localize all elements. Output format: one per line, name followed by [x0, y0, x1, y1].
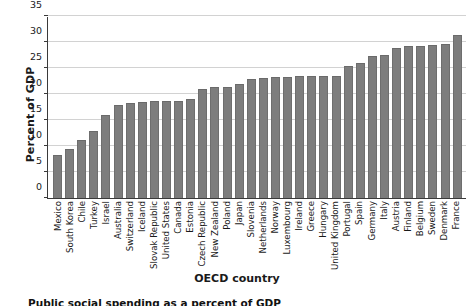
x-tick-label: Mexico — [53, 201, 62, 231]
bar — [114, 105, 123, 198]
bar — [198, 89, 207, 198]
x-tick-label: France — [452, 201, 461, 230]
bar — [235, 84, 244, 198]
x-tick-label: Slovenia — [246, 201, 255, 238]
x-tick-label: South Korea — [65, 201, 74, 253]
x-tick: Slovenia — [245, 199, 256, 271]
x-tick-label: Canada — [174, 201, 183, 234]
x-tick: Czech Republic — [197, 199, 208, 271]
y-tick-label: 10 — [16, 129, 42, 140]
bar — [126, 103, 135, 198]
x-tick: Iceland — [137, 199, 148, 271]
x-axis-tick-labels: MexicoSouth KoreaChileTurkeyIsraelAustra… — [47, 199, 466, 271]
x-tick: Israel — [100, 199, 111, 271]
bar — [77, 140, 86, 198]
figure-caption: Public social spending as a percent of G… — [28, 298, 448, 306]
x-tick-label: Austria — [391, 201, 400, 231]
x-tick: Mexico — [52, 199, 63, 271]
x-axis-title: OECD country — [0, 272, 474, 285]
x-tick-label: Australia — [113, 201, 122, 239]
bar — [283, 77, 292, 198]
bar — [174, 101, 183, 198]
x-tick: Turkey — [88, 199, 99, 271]
x-tick: South Korea — [64, 199, 75, 271]
x-tick-label: Chile — [77, 201, 86, 223]
x-tick-label: Estonia — [186, 201, 195, 233]
gridline — [48, 15, 466, 16]
bar — [356, 63, 365, 198]
y-tick-label: 20 — [16, 77, 42, 88]
x-tick: New Zealand — [209, 199, 220, 271]
y-tick-label: 5 — [16, 155, 42, 166]
x-tick: Denmark — [439, 199, 450, 271]
y-tick-label: 25 — [16, 51, 42, 62]
x-tick: Slovak Republic — [149, 199, 160, 271]
bar — [441, 44, 450, 198]
y-tick-mark — [44, 15, 48, 16]
plot-area: 05101520253035 — [47, 17, 466, 199]
x-tick: Switzerland — [124, 199, 135, 271]
bar — [259, 78, 268, 198]
bar-series — [48, 17, 466, 198]
bar — [428, 45, 437, 198]
x-tick: Estonia — [185, 199, 196, 271]
x-tick: United States — [161, 199, 172, 271]
x-tick-label: Czech Republic — [198, 201, 207, 266]
bar — [368, 56, 377, 198]
x-tick-label: Ireland — [295, 201, 304, 231]
x-tick-label: Hungary — [319, 201, 328, 238]
x-tick: Finland — [402, 199, 413, 271]
x-tick: United Kingdom — [330, 199, 341, 271]
y-tick-label: 15 — [16, 103, 42, 114]
x-tick: Belgium — [414, 199, 425, 271]
bar — [307, 76, 316, 198]
x-tick-label: Netherlands — [258, 201, 267, 253]
bar — [392, 48, 401, 198]
x-tick-label: United States — [162, 201, 171, 259]
x-tick-label: New Zealand — [210, 201, 219, 257]
x-tick-label: Slovak Republic — [150, 201, 159, 269]
bar — [416, 46, 425, 198]
x-tick-label: Japan — [234, 201, 243, 225]
x-tick-label: Belgium — [415, 201, 424, 236]
chart-figure: Percent of GDP 05101520253035 MexicoSout… — [0, 0, 474, 306]
bar — [247, 79, 256, 198]
x-tick-label: Norway — [270, 201, 279, 234]
x-tick: Greece — [306, 199, 317, 271]
x-tick: Portugal — [342, 199, 353, 271]
bar — [344, 66, 353, 198]
x-tick-label: Iceland — [138, 201, 147, 232]
x-tick: Netherlands — [257, 199, 268, 271]
y-tick-label: 0 — [16, 181, 42, 192]
x-tick-label: United Kingdom — [331, 201, 340, 270]
x-tick-label: Spain — [355, 201, 364, 225]
x-tick: France — [451, 199, 462, 271]
bar — [65, 149, 74, 198]
x-tick: Japan — [233, 199, 244, 271]
bar — [453, 35, 462, 198]
x-tick-label: Turkey — [89, 201, 98, 229]
bar — [380, 55, 389, 198]
bar — [150, 101, 159, 198]
x-tick: Germany — [366, 199, 377, 271]
bar — [295, 76, 304, 198]
x-tick: Poland — [221, 199, 232, 271]
x-tick: Sweden — [426, 199, 437, 271]
x-tick: Chile — [76, 199, 87, 271]
bar — [332, 76, 341, 198]
x-tick-label: Poland — [222, 201, 231, 230]
x-tick-label: Israel — [101, 201, 110, 225]
y-tick-label: 30 — [16, 25, 42, 36]
bar — [53, 155, 62, 198]
x-tick: Luxembourg — [281, 199, 292, 271]
bar — [319, 76, 328, 198]
x-tick-label: Switzerland — [125, 201, 134, 251]
x-tick: Italy — [378, 199, 389, 271]
bar — [162, 101, 171, 198]
x-tick: Spain — [354, 199, 365, 271]
bar — [138, 102, 147, 198]
y-tick-label: 35 — [16, 0, 42, 10]
bar — [404, 46, 413, 198]
x-tick: Norway — [269, 199, 280, 271]
x-tick-label: Italy — [379, 201, 388, 220]
